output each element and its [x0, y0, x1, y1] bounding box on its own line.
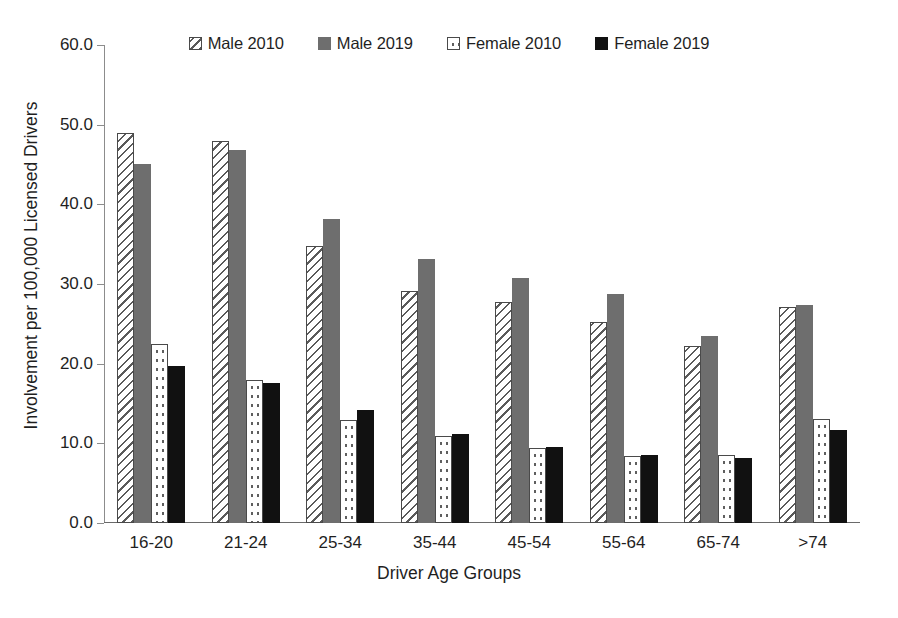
- y-axis-tick-label: 40.0: [60, 194, 93, 214]
- bar: [830, 430, 847, 523]
- x-axis-tick-label: 16-20: [104, 533, 199, 553]
- bar: [452, 434, 469, 523]
- bar: [718, 455, 735, 523]
- bar: [796, 305, 813, 523]
- bar: [684, 346, 701, 523]
- y-axis-tick: [97, 523, 104, 524]
- bar: [263, 383, 280, 523]
- bar: [151, 344, 168, 523]
- bar-group: [482, 45, 577, 523]
- x-axis-title: Driver Age Groups: [0, 563, 898, 584]
- bar: [435, 436, 452, 523]
- bar: [779, 307, 796, 523]
- bar: [495, 302, 512, 523]
- bar-group: [388, 45, 483, 523]
- y-axis-tick: [97, 125, 104, 126]
- bar: [229, 150, 246, 523]
- bar: [529, 448, 546, 523]
- bar-group: [293, 45, 388, 523]
- y-axis-tick-label: 0.0: [69, 513, 93, 533]
- bar: [357, 410, 374, 523]
- y-axis-tick: [97, 443, 104, 444]
- bar-groups: [104, 45, 860, 523]
- y-axis-title: Involvement per 100,000 Licensed Drivers: [21, 46, 42, 486]
- bar-group: [199, 45, 294, 523]
- bar: [306, 246, 323, 523]
- y-axis-tick: [97, 364, 104, 365]
- bar: [735, 458, 752, 523]
- bar: [590, 322, 607, 523]
- x-axis-tick-label: 65-74: [671, 533, 766, 553]
- x-axis-labels: 16-2021-2425-3435-4445-5455-6465-74>74: [104, 533, 860, 553]
- bar-group: [104, 45, 199, 523]
- bar: [607, 294, 624, 523]
- bar: [512, 278, 529, 523]
- bar: [813, 419, 830, 523]
- bar-group: [577, 45, 672, 523]
- bar: [168, 366, 185, 523]
- bar: [117, 133, 134, 523]
- x-axis-tick-label: 35-44: [388, 533, 483, 553]
- y-axis-tick: [97, 204, 104, 205]
- bar: [340, 420, 357, 523]
- y-axis-tick: [97, 45, 104, 46]
- x-axis-tick-label: 25-34: [293, 533, 388, 553]
- bar: [212, 141, 229, 523]
- bar: [134, 164, 151, 523]
- x-axis-tick-label: 45-54: [482, 533, 577, 553]
- y-axis-tick-label: 50.0: [60, 115, 93, 135]
- x-axis-tick-label: 55-64: [577, 533, 672, 553]
- bar: [246, 380, 263, 523]
- bar: [641, 455, 658, 523]
- bar-chart: Male 2010 Male 2019 Female 2010 Female 2…: [0, 0, 898, 618]
- y-axis-tick: [97, 284, 104, 285]
- plot-area: 60.050.040.030.020.010.00.0: [104, 45, 860, 523]
- x-axis-tick-label: 21-24: [199, 533, 294, 553]
- y-axis-tick-label: 20.0: [60, 354, 93, 374]
- y-axis-tick-label: 60.0: [60, 35, 93, 55]
- bar: [546, 447, 563, 523]
- y-axis-tick-label: 10.0: [60, 433, 93, 453]
- bar: [401, 291, 418, 523]
- bar-group: [766, 45, 861, 523]
- bar-group: [671, 45, 766, 523]
- bar: [323, 219, 340, 523]
- bar: [418, 259, 435, 523]
- bar: [701, 336, 718, 523]
- bar: [624, 456, 641, 523]
- y-axis-tick-label: 30.0: [60, 274, 93, 294]
- x-axis-tick-label: >74: [766, 533, 861, 553]
